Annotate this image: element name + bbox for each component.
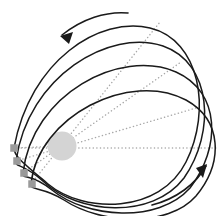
orbit-path-2 <box>16 42 205 208</box>
orbit-diagram-canvas <box>0 0 222 216</box>
apsidal-line-2 <box>23 62 181 173</box>
perihelion-marker-1 <box>10 144 18 152</box>
apsidal-line-1 <box>16 108 196 161</box>
precession-arrow-top-head-icon <box>60 32 73 44</box>
perihelion-marker-2 <box>13 157 21 165</box>
precession-arrow-bottom-icon <box>152 166 206 205</box>
orbital-precession-figure <box>0 0 222 216</box>
orbit-path-group <box>14 26 215 216</box>
precession-arrow-top-icon <box>62 13 128 35</box>
apsidal-line-group <box>14 22 216 184</box>
perihelion-marker-3 <box>20 169 28 177</box>
perihelion-marker-4 <box>28 180 36 188</box>
